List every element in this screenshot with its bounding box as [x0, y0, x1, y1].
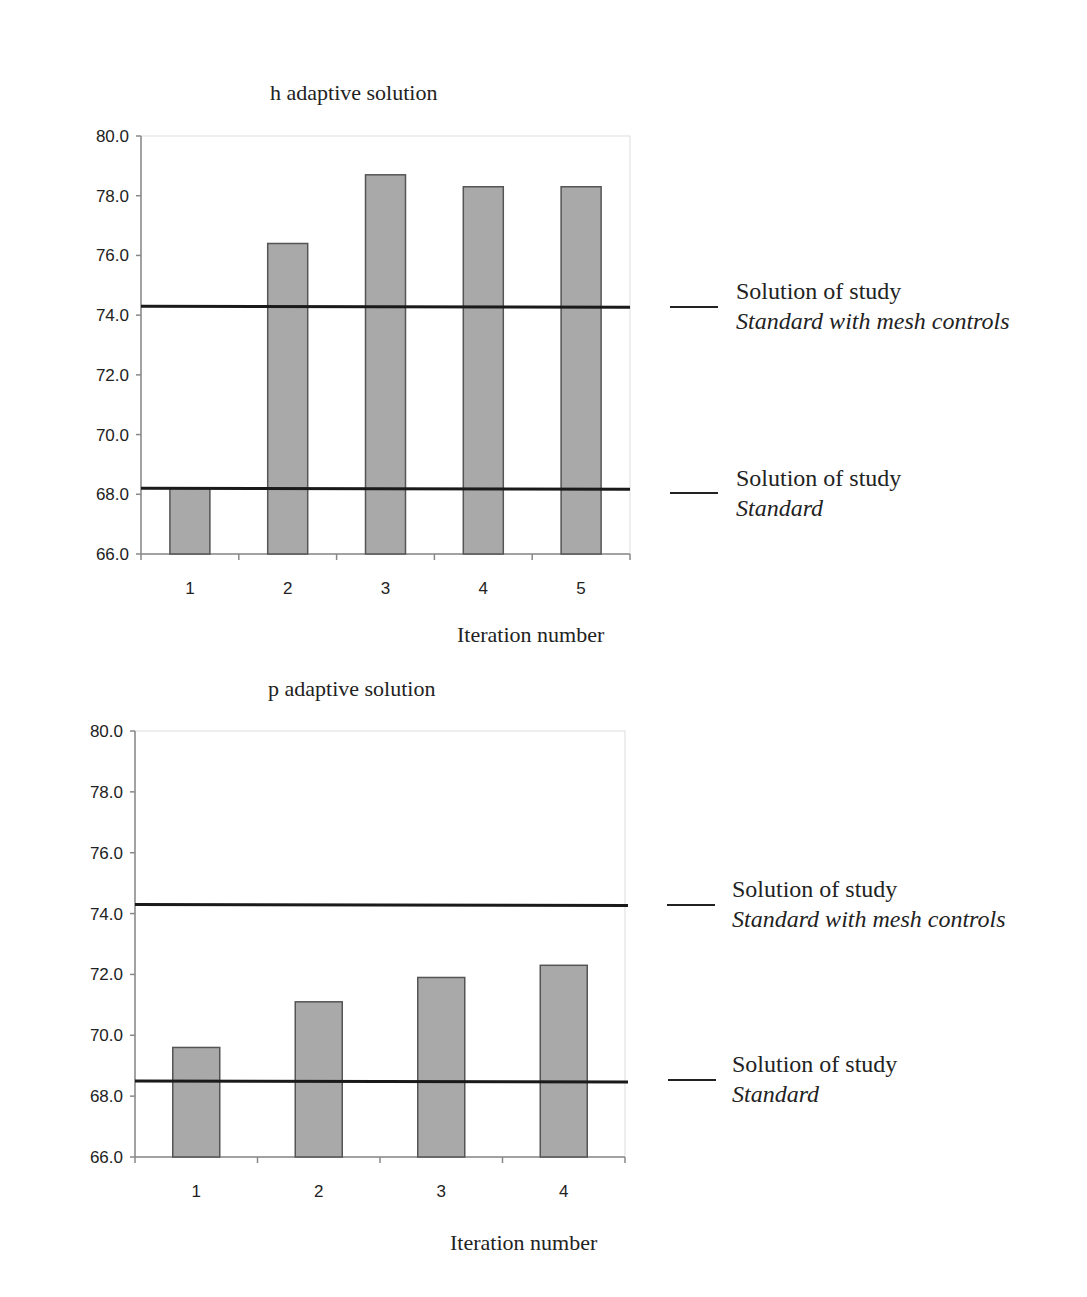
- reference-line: [135, 1081, 628, 1082]
- legend-standard-p: Solution of study Standard: [732, 1049, 897, 1109]
- x-tick-label: 3: [437, 1182, 446, 1201]
- legend-label: Solution of study: [732, 874, 1006, 904]
- y-tick-label: 66.0: [90, 1148, 123, 1167]
- y-tick-label: 76.0: [90, 844, 123, 863]
- legend-mesh-controls-p: Solution of study Standard with mesh con…: [732, 874, 1006, 934]
- y-tick-label: 80.0: [90, 722, 123, 741]
- y-tick-label: 68.0: [90, 1087, 123, 1106]
- y-tick-label: 72.0: [90, 965, 123, 984]
- bar: [418, 977, 465, 1157]
- x-tick-label: 2: [314, 1182, 323, 1201]
- bar-chart-p-adaptive: 66.068.070.072.074.076.078.080.01234: [0, 0, 1087, 1297]
- y-tick-label: 74.0: [90, 905, 123, 924]
- legend-sublabel: Standard: [732, 1079, 897, 1109]
- legend-sublabel: Standard with mesh controls: [732, 904, 1006, 934]
- legend-label: Solution of study: [732, 1049, 897, 1079]
- legend-line-standard-p: [668, 1079, 716, 1081]
- y-tick-label: 70.0: [90, 1026, 123, 1045]
- bar: [540, 965, 587, 1157]
- x-tick-label: 1: [192, 1182, 201, 1201]
- legend-line-mesh-controls-p: [667, 904, 715, 906]
- y-tick-label: 78.0: [90, 783, 123, 802]
- bar: [173, 1047, 220, 1157]
- bar: [295, 1002, 342, 1157]
- x-tick-label: 4: [559, 1182, 568, 1201]
- reference-line: [135, 904, 628, 905]
- x-axis-label-p: Iteration number: [450, 1230, 597, 1256]
